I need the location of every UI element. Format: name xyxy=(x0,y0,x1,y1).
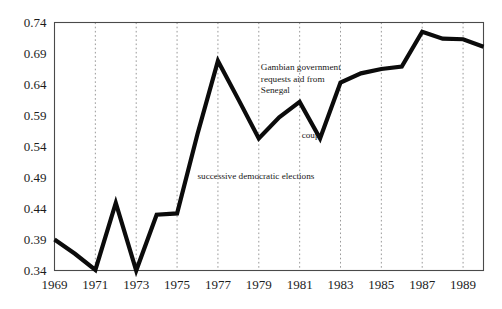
y-axis-tick-label: 0.49 xyxy=(24,170,47,185)
y-axis-tick-label: 0.44 xyxy=(24,201,47,216)
x-axis-tick-label: 1971 xyxy=(82,277,108,292)
y-axis-tick-labels: 0.340.390.440.490.540.590.640.690.74 xyxy=(24,15,47,278)
y-axis-tick-label: 0.64 xyxy=(24,77,47,92)
x-axis-tick-label: 1987 xyxy=(409,277,436,292)
x-axis-tick-label: 1989 xyxy=(450,277,476,292)
x-axis-tick-label: 1983 xyxy=(328,277,354,292)
x-axis-tick-label: 1985 xyxy=(368,277,394,292)
y-axis-tick-label: 0.54 xyxy=(24,139,47,154)
x-axis-tick-label: 1981 xyxy=(287,277,313,292)
annotation-line: Gambian government xyxy=(261,62,341,72)
y-axis-tick-label: 0.39 xyxy=(24,232,47,247)
x-axis-tick-labels: 1969197119731975197719791981198319851987… xyxy=(42,277,477,292)
annotation-successive-elections: successive democratic elections xyxy=(198,171,315,181)
x-axis-tick-label: 1979 xyxy=(246,277,272,292)
y-axis-tick-label: 0.59 xyxy=(24,108,47,123)
annotation-line: requests aid from xyxy=(261,74,325,84)
annotation-line: successive democratic elections xyxy=(198,171,315,181)
x-axis-tick-label: 1975 xyxy=(164,277,190,292)
x-axis-tick-label: 1977 xyxy=(205,277,232,292)
chart-figure: 0.340.390.440.490.540.590.640.690.74 196… xyxy=(0,0,502,309)
x-axis-tick-label: 1969 xyxy=(42,277,68,292)
annotation-line: Senegal xyxy=(261,85,291,95)
line-chart: 0.340.390.440.490.540.590.640.690.74 196… xyxy=(0,0,502,309)
y-axis-tick-label: 0.69 xyxy=(24,46,47,61)
y-axis-tick-label: 0.74 xyxy=(24,15,47,30)
annotation-line: coup xyxy=(302,130,320,140)
chart-background xyxy=(0,0,502,309)
x-axis-tick-label: 1973 xyxy=(123,277,149,292)
annotation-coup: coup xyxy=(302,130,320,140)
